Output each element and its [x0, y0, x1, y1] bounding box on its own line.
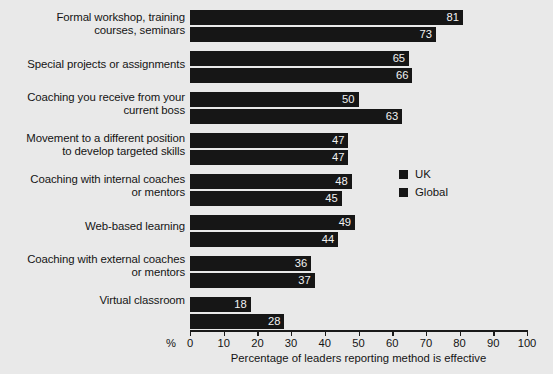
- bar-global: 44: [190, 232, 338, 247]
- x-axis-tick: [291, 330, 292, 336]
- x-axis-tick: [190, 330, 191, 336]
- x-axis-tick: [493, 330, 494, 336]
- bar-value: 47: [332, 135, 344, 146]
- bar-global: 45: [190, 191, 342, 206]
- bar-value: 37: [298, 275, 310, 286]
- x-axis-tick: [460, 330, 461, 336]
- x-axis-tick: [426, 330, 427, 336]
- bar-value: 47: [332, 152, 344, 163]
- category-label: Formal workshop, training courses, semin…: [56, 11, 185, 37]
- x-axis-tick-label: 20: [251, 337, 263, 349]
- x-axis-title: Percentage of leaders reporting method i…: [190, 352, 527, 365]
- category-label: Coaching with internal coaches or mentor…: [30, 173, 185, 199]
- x-axis-tick: [359, 330, 360, 336]
- x-axis-tick-label: 40: [319, 337, 331, 349]
- bar-global: 66: [190, 68, 412, 83]
- x-axis-tick: [392, 330, 393, 336]
- category-label: Coaching with external coaches or mentor…: [27, 253, 185, 279]
- x-axis-tick-label: 70: [420, 337, 432, 349]
- bar-uk: 48: [190, 174, 352, 189]
- legend-swatch-icon: [399, 188, 408, 197]
- percent-unit-label: %: [166, 337, 176, 349]
- x-axis-tick: [257, 330, 258, 336]
- bar-uk: 49: [190, 215, 355, 230]
- legend-item-uk: UK: [399, 166, 448, 182]
- x-axis-tick-label: 100: [518, 337, 537, 349]
- x-axis-tick-label: 50: [352, 337, 364, 349]
- bar-global: 37: [190, 273, 315, 288]
- bar-value: 63: [386, 111, 398, 122]
- bar-uk: 18: [190, 297, 251, 312]
- category-label: Virtual classroom: [100, 294, 185, 307]
- legend-swatch-icon: [399, 170, 408, 179]
- bar-value: 50: [342, 94, 354, 105]
- bar-uk: 65: [190, 51, 409, 66]
- bar-value: 36: [295, 258, 307, 269]
- x-axis-tick-label: 0: [187, 337, 193, 349]
- bar-value: 66: [396, 70, 408, 81]
- x-axis-tick: [325, 330, 326, 336]
- bar-value: 18: [234, 299, 246, 310]
- x-axis-tick: [527, 330, 528, 336]
- bar-value: 45: [325, 193, 337, 204]
- bar-value: 65: [393, 53, 405, 64]
- category-label: Web-based learning: [85, 220, 185, 233]
- x-axis-tick-label: 30: [285, 337, 297, 349]
- x-axis-tick-label: 10: [217, 337, 229, 349]
- x-axis-tick-label: 90: [487, 337, 499, 349]
- legend-label: Global: [415, 186, 448, 198]
- bar-uk: 47: [190, 133, 348, 148]
- bar-value: 44: [322, 234, 334, 245]
- legend-item-global: Global: [399, 184, 448, 200]
- legend-label: UK: [415, 168, 431, 180]
- bar-value: 73: [420, 29, 432, 40]
- bar-uk: 36: [190, 256, 311, 271]
- category-label: Movement to a different position to deve…: [26, 132, 185, 158]
- bar-value: 49: [339, 217, 351, 228]
- bar-global: 73: [190, 27, 436, 42]
- bar-value: 48: [335, 176, 347, 187]
- bar-uk: 81: [190, 10, 463, 25]
- horizontal-bar-chart: Formal workshop, training courses, semin…: [0, 0, 553, 374]
- bar-value: 28: [268, 316, 280, 327]
- x-axis-tick-label: 80: [453, 337, 465, 349]
- plot-area: 81 73 65 66 50 63 47 47 48 45: [190, 0, 527, 330]
- x-axis-tick: [224, 330, 225, 336]
- category-label: Special projects or assignments: [27, 58, 185, 71]
- bar-global: 63: [190, 109, 402, 124]
- bar-uk: 50: [190, 92, 359, 107]
- category-label: Coaching you receive from your current b…: [27, 91, 185, 117]
- bar-global: 47: [190, 150, 348, 165]
- x-axis-tick-label: 60: [386, 337, 398, 349]
- legend: UK Global: [399, 166, 448, 202]
- bar-value: 81: [447, 12, 459, 23]
- bar-global: 28: [190, 314, 284, 329]
